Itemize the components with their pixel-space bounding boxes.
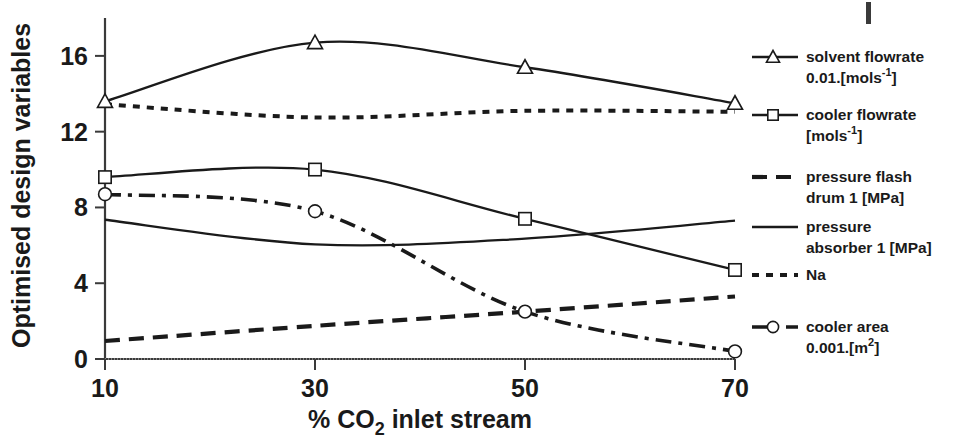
series-marker-circle [519, 305, 532, 318]
series-marker-square [309, 163, 321, 175]
legend-label-line1: solvent flowrate [806, 48, 924, 65]
x-axis-title-pre: % CO [308, 405, 375, 433]
legend-label-line1: pressure [806, 218, 872, 235]
x-tick-label: 50 [511, 374, 539, 402]
legend-label-superscript: -1 [882, 66, 892, 78]
y-tick-label: 16 [60, 42, 88, 70]
legend-label-line2: absorber 1 [MPa] [806, 239, 932, 256]
legend-marker-circle [767, 321, 778, 332]
x-tick-label: 30 [301, 374, 329, 402]
legend-label-line1: pressure flash [806, 168, 912, 185]
legend-label-line2-pre: absorber 1 [MPa] [806, 239, 932, 256]
legend-label-line2-pre: [mols [806, 127, 847, 144]
legend-label-line1: cooler flowrate [806, 106, 917, 123]
legend-label-line2-pre: 0.01.[mols [806, 69, 882, 86]
legend-marker-square [768, 110, 778, 120]
legend-label-line1: cooler area [806, 318, 889, 335]
x-tick-label: 70 [721, 374, 749, 402]
series-marker-square [519, 213, 531, 225]
legend-label-line2-post: ] [874, 339, 879, 356]
legend-label-line1: Na [806, 266, 826, 283]
page-corner-mark [866, 2, 871, 24]
y-tick-label: 4 [74, 269, 88, 297]
legend-label-line2: drum 1 [MPa] [806, 189, 904, 206]
y-tick-label: 0 [74, 345, 88, 373]
legend-label-superscript: -1 [847, 124, 857, 136]
legend-label-line2-post: ] [857, 127, 862, 144]
legend-label-line2-pre: 0.001.[m [806, 339, 868, 356]
y-tick-label: 8 [74, 193, 88, 221]
series-marker-circle [729, 345, 742, 358]
y-axis-title: Optimised design variables [7, 23, 35, 348]
y-tick-label: 12 [60, 118, 88, 146]
chart-figure: Optimised design variables 0481216 10305… [0, 0, 962, 442]
series-marker-square [99, 171, 111, 183]
series-marker-circle [99, 188, 112, 201]
legend-label-line2-post: ] [892, 69, 897, 86]
x-axis-title-subscript: 2 [375, 419, 385, 439]
legend-label-line2-pre: drum 1 [MPa] [806, 189, 904, 206]
x-tick-label: 10 [91, 374, 119, 402]
series-marker-square [729, 264, 741, 276]
x-axis-title-post: inlet stream [385, 405, 532, 433]
series-marker-circle [309, 205, 322, 218]
